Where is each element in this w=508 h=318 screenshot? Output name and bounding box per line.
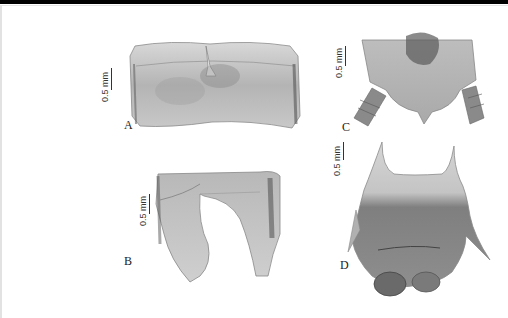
scale-label: 0.5 mm: [138, 196, 148, 226]
panel-c: 0.5 mm C: [342, 28, 508, 138]
panel-b: 0.5 mm B: [100, 164, 300, 294]
viewer-top-bar: [0, 0, 508, 4]
scale-label: 0.5 mm: [100, 72, 110, 102]
panel-label-d: D: [340, 258, 349, 273]
scale-label: 0.5 mm: [334, 48, 344, 78]
panel-label-a: A: [124, 118, 133, 133]
figure-plate: 0.5 mm A 0.5 mm B: [2, 6, 508, 318]
specimen-b-image: [100, 164, 300, 294]
panel-d: 0.5 mm D: [342, 140, 508, 310]
scale-label: 0.5 mm: [332, 146, 342, 176]
panel-label-b: B: [124, 254, 132, 269]
scale-bar-a: 0.5 mm: [100, 54, 112, 104]
panel-label-c: C: [342, 120, 350, 135]
scale-bar-b: 0.5 mm: [138, 184, 150, 234]
scale-line: [111, 68, 112, 90]
panel-a: 0.5 mm A: [100, 36, 310, 136]
scale-line: [345, 46, 346, 66]
scale-bar-c: 0.5 mm: [334, 38, 346, 88]
scale-bar-d: 0.5 mm: [332, 140, 344, 190]
specimen-d-image: [342, 140, 508, 310]
specimen-c-image: [342, 28, 508, 138]
scale-line: [343, 142, 344, 160]
scale-line: [149, 194, 150, 214]
